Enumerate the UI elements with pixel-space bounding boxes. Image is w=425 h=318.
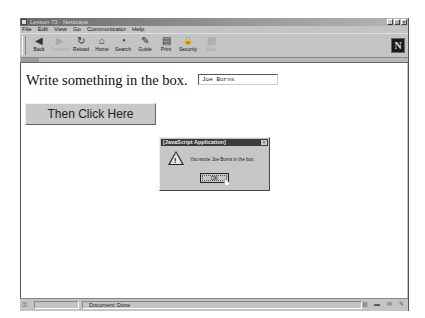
guide-icon: ✎ — [140, 36, 150, 46]
composer-icon[interactable]: ✎ — [397, 301, 405, 308]
reload-button[interactable]: ↻ Reload — [70, 36, 92, 56]
reload-icon: ↻ — [76, 36, 86, 46]
security-icon: 🔒 — [183, 36, 193, 46]
print-label: Print — [155, 46, 177, 53]
back-label: Back — [28, 46, 50, 53]
maximize-button[interactable]: □ — [394, 19, 400, 25]
guide-label: Guide — [134, 46, 156, 53]
stop-icon: ▦ — [206, 36, 216, 46]
reload-label: Reload — [70, 46, 92, 53]
toolbar-grip[interactable] — [22, 36, 26, 55]
search-button[interactable]: ◔ Search — [112, 36, 134, 56]
title-bar[interactable]: Lesson 73 - Netscape _ □ × — [20, 18, 408, 26]
search-label: Search — [112, 46, 134, 53]
home-button[interactable]: ⌂ Home — [91, 36, 113, 56]
security-button[interactable]: 🔒 Security — [177, 36, 199, 56]
menu-go[interactable]: Go — [73, 26, 81, 33]
home-icon: ⌂ — [97, 36, 107, 46]
forward-icon: ▶ — [55, 36, 65, 46]
stop-label: Stop — [200, 46, 222, 53]
menu-bar: File Edit View Go Communicator Help — [20, 26, 408, 33]
status-text: Document: Done — [82, 301, 362, 309]
back-button[interactable]: ◀ Back — [28, 36, 50, 56]
home-label: Home — [91, 46, 113, 53]
javascript-alert-dialog: [JavaScript Application] × ! You wrote J… — [159, 137, 270, 191]
window-title: Lesson 73 - Netscape — [30, 18, 88, 26]
menu-help[interactable]: Help — [132, 26, 144, 33]
status-bar: ⚿ Document: Done ▥ ▬ ✉ ✎ — [20, 298, 408, 311]
menu-communicator[interactable]: Communicator — [87, 26, 126, 33]
dialog-close-button[interactable]: × — [261, 140, 267, 145]
warning-exclamation: ! — [174, 157, 176, 164]
prompt-text: Write something in the box. — [26, 71, 188, 89]
security-label: Security — [177, 46, 199, 53]
netscape-logo[interactable]: N — [391, 38, 405, 53]
dialog-title-bar[interactable]: [JavaScript Application] × — [161, 139, 268, 146]
menu-edit[interactable]: Edit — [38, 26, 48, 33]
dialog-title: [JavaScript Application] — [163, 139, 226, 146]
search-icon: ◔ — [118, 36, 128, 46]
browser-window: Lesson 73 - Netscape _ □ × File Edit Vie… — [20, 18, 409, 311]
security-lock-icon[interactable]: ⚿ — [22, 301, 30, 308]
back-icon: ◀ — [34, 36, 44, 46]
guide-button[interactable]: ✎ Guide — [134, 36, 156, 56]
app-icon — [21, 19, 27, 25]
bookmarks-tab[interactable] — [21, 58, 39, 62]
dialog-message: You wrote Joe Burns in the box. — [190, 157, 255, 163]
forward-button[interactable]: ▶ Forward — [49, 36, 71, 56]
component-bar: ▥ ▬ ✉ ✎ — [361, 301, 405, 308]
menu-view[interactable]: View — [54, 26, 67, 33]
forward-label: Forward — [49, 46, 71, 53]
mailbox-icon[interactable]: ▬ — [373, 301, 381, 308]
navigation-toolbar: ◀ Back ▶ Forward ↻ Reload ⌂ Home ◔ Searc… — [20, 33, 408, 58]
discussion-icon[interactable]: ✉ — [385, 301, 393, 308]
window-controls: _ □ × — [386, 19, 407, 25]
minimize-button[interactable]: _ — [387, 19, 393, 25]
stop-button[interactable]: ▦ Stop — [200, 36, 222, 56]
ok-label: OK — [211, 175, 218, 181]
print-icon: ▤ — [161, 36, 171, 46]
page-content: Write something in the box. Joe Burns Th… — [20, 63, 407, 298]
name-text-input[interactable]: Joe Burns — [198, 74, 278, 85]
close-button[interactable]: × — [401, 19, 407, 25]
menu-file[interactable]: File — [22, 26, 32, 33]
navigator-icon[interactable]: ▥ — [361, 301, 369, 308]
progress-bar — [34, 301, 79, 309]
print-button[interactable]: ▤ Print — [155, 36, 177, 56]
then-click-here-button[interactable]: Then Click Here — [25, 103, 156, 125]
